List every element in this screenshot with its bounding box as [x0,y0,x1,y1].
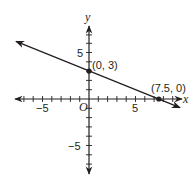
point-label-y-intercept: (0, 3) [92,59,118,71]
coordinate-plane: y x O −5 5 5 −5 (0, 3) (7.5, 0) [0,0,196,179]
x-tick-label-pos5: 5 [132,102,138,114]
point-y-intercept [86,69,91,74]
origin-label: O [79,100,88,114]
y-tick-label-pos5: 5 [77,47,83,59]
x-tick-label-neg5: −5 [36,102,49,114]
y-axis-label: y [84,10,91,24]
y-tick-label-neg5: −5 [68,140,81,152]
point-label-x-intercept: (7.5, 0) [151,82,186,94]
point-x-intercept [156,96,161,101]
x-axis-label: x [182,92,189,106]
